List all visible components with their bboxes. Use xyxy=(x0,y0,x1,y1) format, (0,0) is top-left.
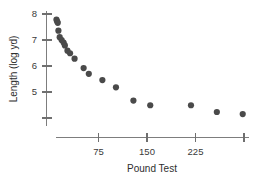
x-axis-tick-labels: 75150225 xyxy=(93,146,203,157)
x-axis-title: Pound Test xyxy=(127,163,177,174)
data-point xyxy=(71,56,77,62)
y-axis: 8765 xyxy=(32,8,52,126)
y-axis-title: Length (log yd) xyxy=(8,36,19,103)
data-point xyxy=(55,28,61,34)
data-point xyxy=(113,84,119,90)
scatter-chart-figure: 8765 75150225 Pound Test Length (log yd) xyxy=(0,0,266,181)
y-tick-label: 8 xyxy=(32,8,37,19)
x-tick-label: 150 xyxy=(139,146,155,157)
data-point xyxy=(81,65,87,71)
y-tick-label: 5 xyxy=(32,86,37,97)
scatter-plot-canvas: 8765 75150225 Pound Test Length (log yd) xyxy=(0,0,266,181)
data-point xyxy=(214,109,220,115)
data-point xyxy=(86,71,92,77)
y-axis-tick-labels: 8765 xyxy=(32,8,37,97)
data-point xyxy=(67,50,73,56)
data-point xyxy=(188,102,194,108)
y-tick-label: 7 xyxy=(32,34,37,45)
data-point xyxy=(240,111,246,117)
x-tick-label: 225 xyxy=(188,146,204,157)
data-points-layer xyxy=(53,17,245,118)
x-axis: 75150225 xyxy=(56,133,249,157)
data-point xyxy=(55,20,61,26)
data-point xyxy=(130,97,136,103)
y-tick-label: 6 xyxy=(32,60,37,71)
data-point xyxy=(99,77,105,83)
data-point xyxy=(147,102,153,108)
x-tick-label: 75 xyxy=(93,146,104,157)
